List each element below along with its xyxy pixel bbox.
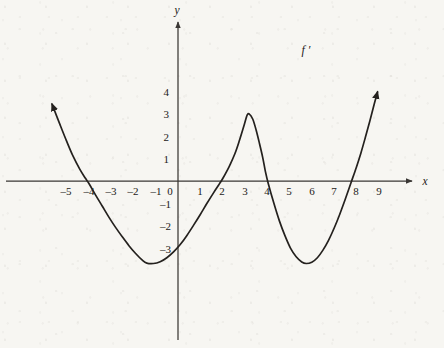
curve-label-f-prime: f ′ (302, 43, 311, 57)
x-tick-label: 8 (353, 185, 359, 197)
y-tick-label: 3 (164, 108, 170, 120)
x-tick-label: –1 (150, 185, 162, 197)
y-tick-label: 2 (164, 131, 170, 143)
x-axis-label: x (421, 175, 428, 187)
x-tick-label: 6 (309, 185, 315, 197)
y-tick-label: 4 (164, 86, 170, 98)
y-axis-label: y (173, 4, 180, 17)
x-tick-label: 9 (376, 185, 382, 197)
x-tick-label: 5 (286, 185, 292, 197)
x-tick-label: 0 (167, 185, 173, 197)
x-tick-label-group: –5 –4 –3 –2 –1 0 1 2 3 4 5 6 7 8 9 (60, 185, 383, 197)
x-tick-label: –2 (127, 185, 139, 197)
y-tick-label: 1 (164, 153, 170, 165)
x-tick-label: 1 (197, 185, 203, 197)
derivative-curve (52, 92, 378, 264)
x-tick-label: –3 (105, 185, 118, 197)
y-tick-label: –2 (159, 220, 171, 232)
y-tick-label-group: 4 3 2 1 –1 –2 –3 (159, 86, 172, 255)
x-tick-label: 3 (242, 185, 248, 197)
x-tick-label: 7 (331, 185, 337, 197)
derivative-graph-figure: x y –5 –4 –3 –2 –1 0 1 2 3 4 5 6 7 8 9 4… (0, 0, 444, 348)
y-tick-label: –1 (159, 198, 171, 210)
y-tick-label: –3 (159, 243, 172, 255)
x-tick-label: 2 (219, 185, 225, 197)
x-tick-label: –5 (60, 185, 73, 197)
